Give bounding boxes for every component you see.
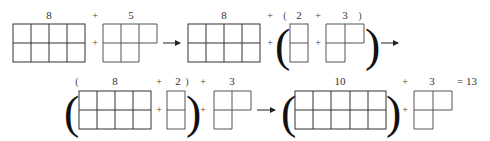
label-2: 2 [175,75,181,87]
grid-8 [13,24,85,62]
label-3: 3 [429,75,435,87]
label-10: 10 [335,75,347,87]
big-close-paren: ) [186,87,201,138]
label-5: 5 [128,9,134,21]
shape-3 [414,91,452,129]
label-8: 8 [221,9,227,21]
box-2 [290,24,308,62]
label-8: 8 [46,9,52,21]
shape-3 [326,24,364,62]
big-open-paren: ( [281,87,296,138]
label-8: 8 [112,75,118,87]
shape-3 [214,91,251,129]
plus-sign: + [92,37,98,48]
plus-sign: + [156,104,162,115]
grid-8 [79,91,151,129]
big-open-paren: ( [64,87,79,138]
plus-sign: + [402,104,408,115]
grid-10 [295,91,386,129]
big-open-paren: ( [275,20,290,71]
label-3: 3 [229,75,235,87]
big-close-paren: ) [386,87,401,138]
plus-sign: + [267,37,273,48]
big-close-paren: ) [365,20,380,71]
grid-8 [188,24,260,62]
shape-5 [103,24,157,62]
addition-diagram: 8 + 5 8 + ( 2 + 3 ) + + ( + [0,0,490,141]
plus-sign: + [315,37,321,48]
label-plus: + [92,10,98,21]
label-plus: + [267,10,273,21]
label-plus: + [156,76,162,87]
plus-sign: + [200,104,206,115]
label-3: 3 [342,9,348,21]
label-plus: + [402,76,408,87]
result-label: = 13 [457,75,477,87]
label-plus: + [200,76,206,87]
label-2: 2 [296,9,302,21]
label-close-paren: ) [358,10,361,22]
label-plus: + [315,10,321,21]
box-2 [167,91,185,129]
